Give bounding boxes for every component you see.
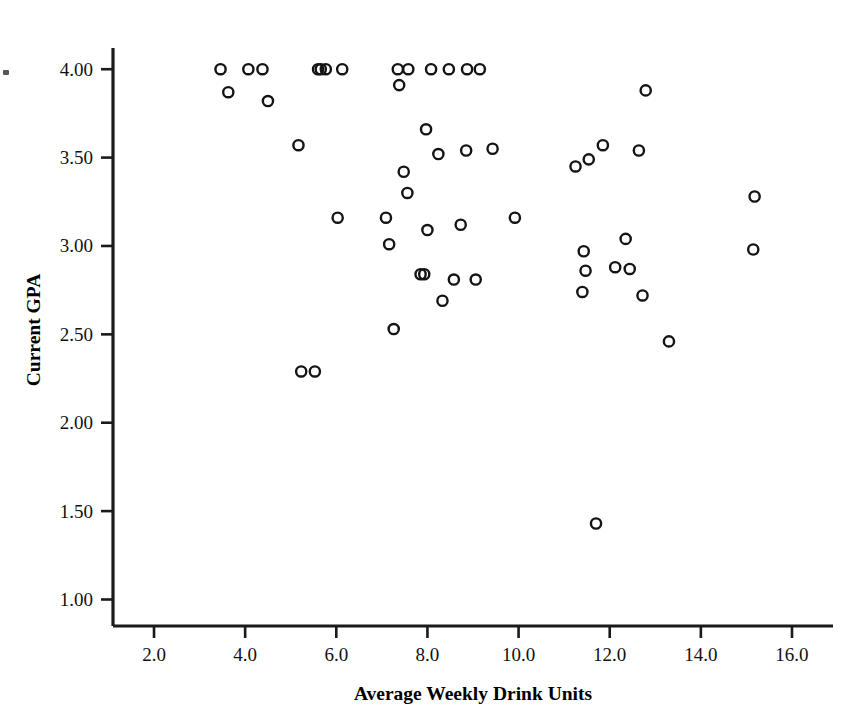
scatter-point [475,64,485,74]
scatter-point [510,213,520,223]
x-tick-label: 14.0 [684,644,717,665]
scatter-point [394,80,404,90]
x-tick-label: 2.0 [142,644,166,665]
scatter-point [579,246,589,256]
axes-group [113,48,833,626]
x-tick-label: 16.0 [775,644,808,665]
scatter-point [293,140,303,150]
scatter-point [243,64,253,74]
scatter-point [456,220,466,230]
y-tick-label: 1.50 [60,501,93,522]
y-tick-label: 1.00 [60,589,93,610]
scatter-plot-figure: 1.001.502.002.503.003.504.00 2.04.06.08.… [0,0,866,726]
scatter-point [664,336,674,346]
scatter-point [257,64,267,74]
scatter-point [421,124,431,134]
y-tick-label: 3.00 [60,235,93,256]
scatter-point [393,64,403,74]
y-axis-title: Current GPA [23,274,44,386]
y-tick-label: 2.00 [60,412,93,433]
scatter-point [634,145,644,155]
scatter-point [449,274,459,284]
scatter-point [402,188,412,198]
scatter-point [444,64,454,74]
scatter-point [384,239,394,249]
scatter-point [296,366,306,376]
x-tick-label: 8.0 [416,644,440,665]
y-tick-label: 3.50 [60,147,93,168]
scatter-point [426,64,436,74]
x-axis-ticks: 2.04.06.08.010.012.014.016.0 [142,626,808,665]
scatter-point [637,290,647,300]
x-tick-label: 12.0 [593,644,626,665]
x-tick-label: 10.0 [502,644,535,665]
scatter-point [591,518,601,528]
y-axis-ticks: 1.001.502.002.503.003.504.00 [60,59,113,610]
y-tick-label: 2.50 [60,324,93,345]
scatter-point [487,144,497,154]
scatter-point [598,140,608,150]
scatter-point [621,234,631,244]
scatter-point [333,213,343,223]
scatter-point [471,274,481,284]
scatter-point [223,87,233,97]
scatter-point [748,244,758,254]
scatter-point [750,191,760,201]
y-tick-label: 4.00 [60,59,93,80]
scatter-point [433,149,443,159]
scatter-point [263,96,273,106]
scatter-point [641,85,651,95]
x-tick-label: 4.0 [233,644,257,665]
scatter-point [381,213,391,223]
data-points-layer [215,64,759,528]
scatter-point [337,64,347,74]
scatter-point [462,64,472,74]
scatter-point [422,225,432,235]
scatter-point [310,366,320,376]
scatter-point [580,266,590,276]
x-tick-label: 6.0 [324,644,348,665]
scatter-point [215,64,225,74]
scatter-point [584,154,594,164]
scatter-point [389,324,399,334]
scatter-point [570,161,580,171]
scatter-point [625,264,635,274]
scatter-point [399,167,409,177]
scatter-point [437,296,447,306]
plot-canvas: 1.001.502.002.503.003.504.00 2.04.06.08.… [0,0,866,726]
scatter-point [610,262,620,272]
scatter-point [577,287,587,297]
scatter-point [403,64,413,74]
x-axis-title: Average Weekly Drink Units [354,683,593,704]
scatter-point [461,145,471,155]
